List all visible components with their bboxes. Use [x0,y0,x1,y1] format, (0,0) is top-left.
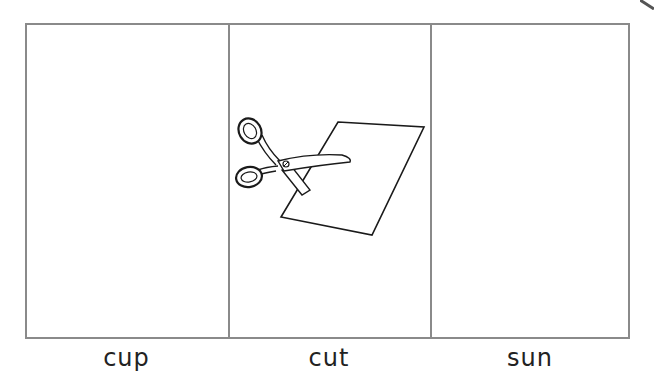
picture-cell-sun[interactable] [432,25,628,337]
page-corner-mark [640,0,654,10]
picture-cell-cup[interactable] [27,25,230,337]
word-label-sun: sun [430,344,630,374]
word-label-cup: cup [25,344,228,374]
scissors-cutting-paper-icon [230,25,432,337]
picture-grid [25,23,630,339]
word-label-cut: cut [228,344,430,374]
picture-cell-cut[interactable] [230,25,432,337]
word-labels: cup cut sun [25,344,630,374]
